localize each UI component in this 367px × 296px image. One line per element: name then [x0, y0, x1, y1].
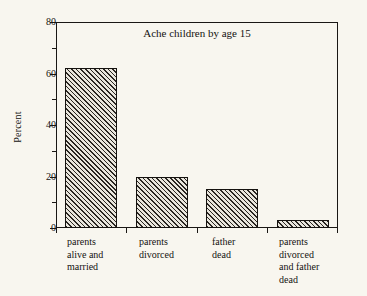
- bars-container: [56, 22, 338, 228]
- x-tick-mark-4: [337, 228, 338, 233]
- bar-chart-figure: Percent 0 20 40 60 80 Ache children by a…: [0, 0, 367, 296]
- x-tick-mark-3: [267, 228, 268, 233]
- x-label-parents-alive-and-married: parents alive and married: [67, 236, 103, 274]
- x-tick-mark-0: [56, 228, 57, 233]
- bar-father-dead[interactable]: [206, 189, 258, 228]
- x-label-parents-divorced: parents divorced: [139, 236, 174, 261]
- x-label-parents-divorced-and-father-dead: parents divorced and father dead: [279, 236, 319, 286]
- bar-parents-divorced[interactable]: [136, 177, 188, 229]
- x-tick-mark-1: [126, 228, 127, 233]
- x-tick-mark-2: [197, 228, 198, 233]
- bar-parents-alive-and-married[interactable]: [65, 68, 117, 228]
- x-axis-category-labels: parents alive and married parents divorc…: [56, 236, 338, 296]
- x-label-father-dead: father dead: [212, 236, 235, 261]
- bar-parents-divorced-and-father-dead[interactable]: [277, 220, 329, 228]
